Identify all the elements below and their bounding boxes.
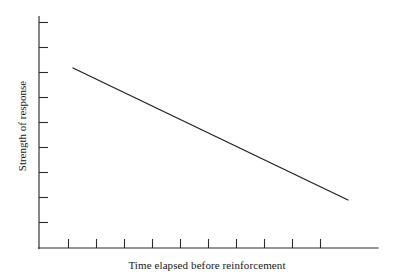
chart-plot-area — [0, 0, 396, 280]
data-series-strength-of-response — [73, 68, 348, 200]
chart-figure: Time elapsed before reinforcement Streng… — [0, 0, 396, 280]
x-axis-label: Time elapsed before reinforcement — [0, 259, 396, 271]
data-line-segment — [73, 68, 348, 200]
y-axis-ticks — [39, 23, 48, 223]
x-axis-ticks — [69, 239, 321, 248]
y-axis-label: Strength of response — [16, 81, 28, 171]
